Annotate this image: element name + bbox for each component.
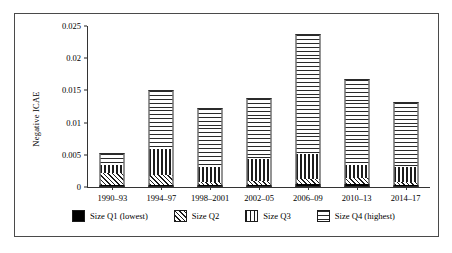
- x-tick-label: 1994–97: [146, 193, 176, 203]
- y-tick-label: 0.01: [66, 118, 81, 128]
- x-tick-mark: [308, 187, 309, 190]
- bar-segment[interactable]: [149, 90, 174, 149]
- legend-item[interactable]: Size Q3: [245, 210, 290, 222]
- bar-stack[interactable]: [100, 153, 125, 187]
- legend-label: Size Q3: [263, 211, 290, 221]
- bar-stack[interactable]: [344, 79, 369, 187]
- bar-stack[interactable]: [198, 108, 223, 187]
- legend-item[interactable]: Size Q2: [174, 210, 219, 222]
- legend-label: Size Q1 (lowest): [90, 211, 148, 221]
- bar-segment[interactable]: [393, 167, 418, 182]
- bar-group[interactable]: [186, 26, 235, 187]
- x-axis-ticks: 1990–931994–971998–20012002–052006–09201…: [88, 187, 430, 209]
- legend-label: Size Q4 (highest): [335, 211, 395, 221]
- x-tick-label: 2002–05: [244, 193, 274, 203]
- bar-segment[interactable]: [393, 102, 418, 167]
- bar-stack[interactable]: [246, 98, 271, 187]
- legend-label: Size Q2: [192, 211, 219, 221]
- x-tick-label: 1990–93: [98, 193, 128, 203]
- bar-segment[interactable]: [100, 153, 125, 165]
- bar-segment[interactable]: [198, 167, 223, 182]
- bar-group[interactable]: [283, 26, 332, 187]
- x-tick-mark: [210, 187, 211, 190]
- bar-group[interactable]: [137, 26, 186, 187]
- bar-group[interactable]: [332, 26, 381, 187]
- x-tick-mark: [112, 187, 113, 190]
- bar-segment[interactable]: [149, 175, 174, 185]
- bar-segment[interactable]: [198, 108, 223, 167]
- y-tick-label: 0.025: [62, 21, 81, 31]
- legend-swatch-horizontal-lines: [317, 210, 330, 222]
- x-tick-mark: [357, 187, 358, 190]
- y-tick-label: 0.02: [66, 53, 81, 63]
- bar-stack[interactable]: [149, 90, 174, 187]
- bar-stack[interactable]: [393, 102, 418, 187]
- x-tick-label: 2014–17: [391, 193, 421, 203]
- bar-segment[interactable]: [344, 79, 369, 165]
- bar-segment[interactable]: [295, 154, 320, 180]
- bar-group[interactable]: [88, 26, 137, 187]
- bars-container: [88, 26, 430, 187]
- y-tick-label: 0.005: [62, 150, 81, 160]
- x-tick-mark: [406, 187, 407, 190]
- bar-segment[interactable]: [246, 159, 271, 181]
- bar-segment[interactable]: [149, 149, 174, 175]
- y-axis-title-text: Negative ICAE: [31, 91, 41, 146]
- x-tick-mark: [161, 187, 162, 190]
- chart-legend: Size Q1 (lowest)Size Q2Size Q3Size Q4 (h…: [15, 210, 438, 222]
- bar-segment[interactable]: [295, 34, 320, 153]
- y-tick-label: 0.015: [62, 85, 81, 95]
- bar-group[interactable]: [235, 26, 284, 187]
- bar-group[interactable]: [381, 26, 430, 187]
- x-tick-label: 1998–2001: [191, 193, 229, 203]
- bar-segment[interactable]: [344, 165, 369, 178]
- bar-segment[interactable]: [246, 98, 271, 159]
- x-tick-mark: [259, 187, 260, 190]
- legend-item[interactable]: Size Q1 (lowest): [72, 210, 148, 222]
- legend-item[interactable]: Size Q4 (highest): [317, 210, 395, 222]
- bar-segment[interactable]: [100, 173, 125, 185]
- x-tick-label: 2010–13: [342, 193, 372, 203]
- plot-area: Negative ICAE 00.0050.010.0150.020.025 1…: [15, 14, 438, 236]
- legend-swatch-solid-black: [72, 210, 85, 222]
- legend-swatch-vertical-lines: [245, 210, 258, 222]
- bar-stack[interactable]: [295, 34, 320, 187]
- y-axis-ticks: 00.0050.010.0150.020.025: [41, 14, 87, 236]
- figure-frame: Negative ICAE 00.0050.010.0150.020.025 1…: [14, 13, 439, 237]
- bar-segment[interactable]: [100, 165, 125, 173]
- x-tick-label: 2006–09: [293, 193, 323, 203]
- legend-swatch-diagonal-hatch: [174, 210, 187, 222]
- y-tick-label: 0: [77, 182, 81, 192]
